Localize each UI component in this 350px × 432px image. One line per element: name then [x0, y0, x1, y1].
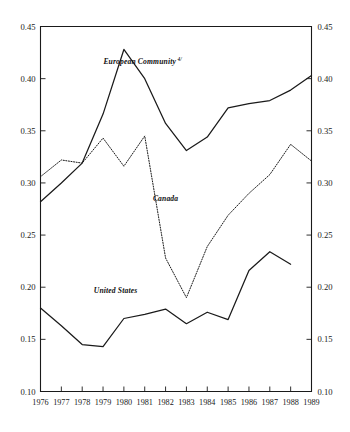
plot-frame — [41, 27, 312, 392]
chart-canvas: 0.450.450.400.400.350.350.300.300.250.25… — [0, 0, 350, 432]
left-y-tick-label: 0.15 — [20, 334, 35, 344]
x-tick-label: 1987 — [262, 398, 278, 407]
x-tick-label: 1982 — [157, 398, 173, 407]
right-y-tick-label: 0.45 — [318, 22, 333, 32]
left-y-tick-label: 0.10 — [20, 387, 35, 397]
series-label-united-states: United States — [94, 286, 138, 295]
right-y-tick-label: 0.30 — [318, 178, 333, 188]
series-line-european-community — [41, 49, 312, 201]
right-y-tick-label: 0.40 — [318, 74, 333, 84]
right-y-tick-label: 0.15 — [318, 334, 333, 344]
series-label-canada: Canada — [153, 194, 178, 203]
line-chart: 0.450.450.400.400.350.350.300.300.250.25… — [0, 0, 350, 432]
x-tick-label: 1984 — [199, 398, 215, 407]
left-y-tick-label: 0.45 — [20, 22, 35, 32]
left-y-tick-label: 0.25 — [20, 230, 35, 240]
x-tick-label: 1988 — [282, 398, 298, 407]
x-tick-label: 1976 — [32, 398, 48, 407]
right-y-tick-label: 0.10 — [318, 387, 333, 397]
series-label-european-community: European Community4/ — [102, 56, 182, 66]
left-y-tick-label: 0.20 — [20, 282, 35, 292]
x-tick-label: 1978 — [74, 398, 90, 407]
left-y-tick-label: 0.30 — [20, 178, 35, 188]
left-y-tick-label: 0.40 — [20, 74, 35, 84]
right-y-tick-label: 0.20 — [318, 282, 333, 292]
x-tick-label: 1979 — [95, 398, 111, 407]
x-tick-label: 1989 — [303, 398, 319, 407]
x-tick-label: 1981 — [137, 398, 153, 407]
series-line-united-states — [41, 252, 291, 347]
x-tick-label: 1986 — [241, 398, 257, 407]
right-y-tick-label: 0.35 — [318, 126, 333, 136]
x-tick-label: 1985 — [220, 398, 236, 407]
right-y-tick-label: 0.25 — [318, 230, 333, 240]
x-tick-label: 1983 — [178, 398, 194, 407]
series-line-canada — [41, 136, 312, 298]
x-tick-label: 1980 — [116, 398, 132, 407]
x-tick-label: 1977 — [53, 398, 69, 407]
left-y-tick-label: 0.35 — [20, 126, 35, 136]
